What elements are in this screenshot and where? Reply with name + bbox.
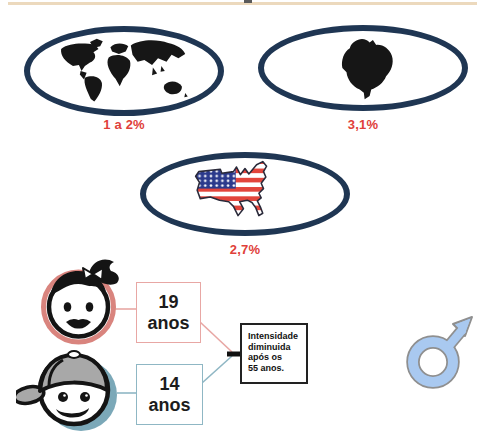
infographic-page: 1 a 2% 3,1% [0,0,485,440]
girl-age-box: 19 anos [136,282,201,343]
usa-flag-map-icon [191,159,299,229]
boy-age-value: 14 [159,374,179,395]
girl-face-icon [36,258,131,353]
girl-age-value: 19 [158,292,178,313]
cap-button [68,351,80,358]
intensity-note-box: Intensidade diminuida após os 55 anos. [240,323,308,384]
note-line: diminuida [248,342,304,353]
girl-age-unit: anos [147,313,189,334]
usa-prevalence-oval [140,152,350,236]
world-prevalence-oval [24,26,224,116]
male-symbol-icon [402,303,480,395]
top-divider-line [8,2,477,5]
brazil-prevalence-label: 3,1% [258,117,468,132]
boy-age-box: 14 anos [136,364,203,425]
brazil-prevalence-oval [258,25,468,111]
world-prevalence-label: 1 a 2% [24,117,224,132]
boy-face-icon [16,346,122,438]
boy-age-unit: anos [148,395,190,416]
world-map-icon [56,36,192,106]
usa-prevalence-label: 2,7% [140,242,350,257]
top-divider-tick [244,0,252,3]
note-line: após os [248,352,304,363]
brazil-map-icon [328,35,398,101]
note-line: Intensidade [248,331,304,342]
note-line: 55 anos. [248,363,304,374]
